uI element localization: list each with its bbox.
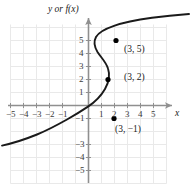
ytick-label-1: 1 xyxy=(79,88,84,97)
xtick-label-2: 2 xyxy=(112,110,117,119)
point-3-2 xyxy=(105,77,110,82)
graph-figure: y or f(x) x −5 −4 −3 −2 −1 1 2 3 4 5 5 4… xyxy=(0,0,191,190)
xtick-label-4: 4 xyxy=(138,110,143,119)
y-axis xyxy=(85,18,92,183)
xtick-label-5: 5 xyxy=(151,110,156,119)
xtick-label-3: 3 xyxy=(125,110,130,119)
xtick-label-neg3: −3 xyxy=(32,110,42,119)
ytick-label-neg5: −5 xyxy=(75,166,85,175)
xtick-label-neg1: −1 xyxy=(58,110,68,119)
graph-canvas xyxy=(0,0,191,190)
xtick-label-neg2: −2 xyxy=(45,110,55,119)
point-label-3-neg1: (3, −1) xyxy=(115,125,141,135)
ytick-label-2: 2 xyxy=(79,75,84,84)
xtick-label-neg4: −4 xyxy=(19,110,29,119)
point-label-3-2: (3, 2) xyxy=(124,73,145,83)
ytick-label-3: 3 xyxy=(79,62,84,71)
y-axis-label: y or f(x) xyxy=(48,5,79,15)
point-label-3-5: (3, 5) xyxy=(124,45,145,55)
xtick-label-neg5: −5 xyxy=(6,110,16,119)
ytick-label-5: 5 xyxy=(79,36,84,45)
x-axis-label: x xyxy=(175,109,179,119)
ytick-label-neg1: −1 xyxy=(75,114,85,123)
ytick-label-4: 4 xyxy=(79,49,84,58)
ytick-label-neg4: −4 xyxy=(75,153,85,162)
point-3-5 xyxy=(113,38,118,43)
xtick-label-1: 1 xyxy=(99,110,104,119)
ytick-label-neg3: −3 xyxy=(75,140,85,149)
